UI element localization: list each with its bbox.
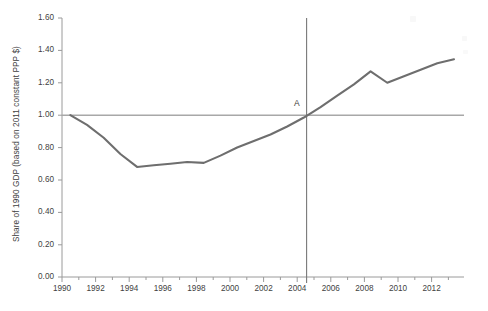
data-series bbox=[70, 59, 454, 167]
y-tick-label-1.40: 1.40 bbox=[24, 46, 54, 54]
y-tick-label-1.20: 1.20 bbox=[24, 79, 54, 87]
annotation-label-a: A bbox=[294, 99, 300, 108]
y-tick-label-0.40: 0.40 bbox=[24, 208, 54, 216]
chart-plot-area bbox=[0, 0, 488, 311]
y-tick-label-1.60: 1.60 bbox=[24, 14, 54, 22]
scan-artifact bbox=[463, 50, 468, 54]
x-tick-label-2012: 2012 bbox=[412, 285, 452, 293]
y-tick-label-0.20: 0.20 bbox=[24, 241, 54, 249]
x-axis-ticks bbox=[62, 277, 448, 282]
y-axis-ticks bbox=[58, 18, 62, 277]
y-tick-label-0.00: 0.00 bbox=[24, 273, 54, 281]
scan-artifact bbox=[462, 36, 467, 41]
y-tick-label-0.60: 0.60 bbox=[24, 176, 54, 184]
y-tick-label-1.00: 1.00 bbox=[24, 111, 54, 119]
scan-artifact bbox=[410, 16, 416, 22]
chart-container: Share of 1990 GDP (based on 2011 constan… bbox=[0, 0, 488, 311]
y-tick-label-0.80: 0.80 bbox=[24, 144, 54, 152]
